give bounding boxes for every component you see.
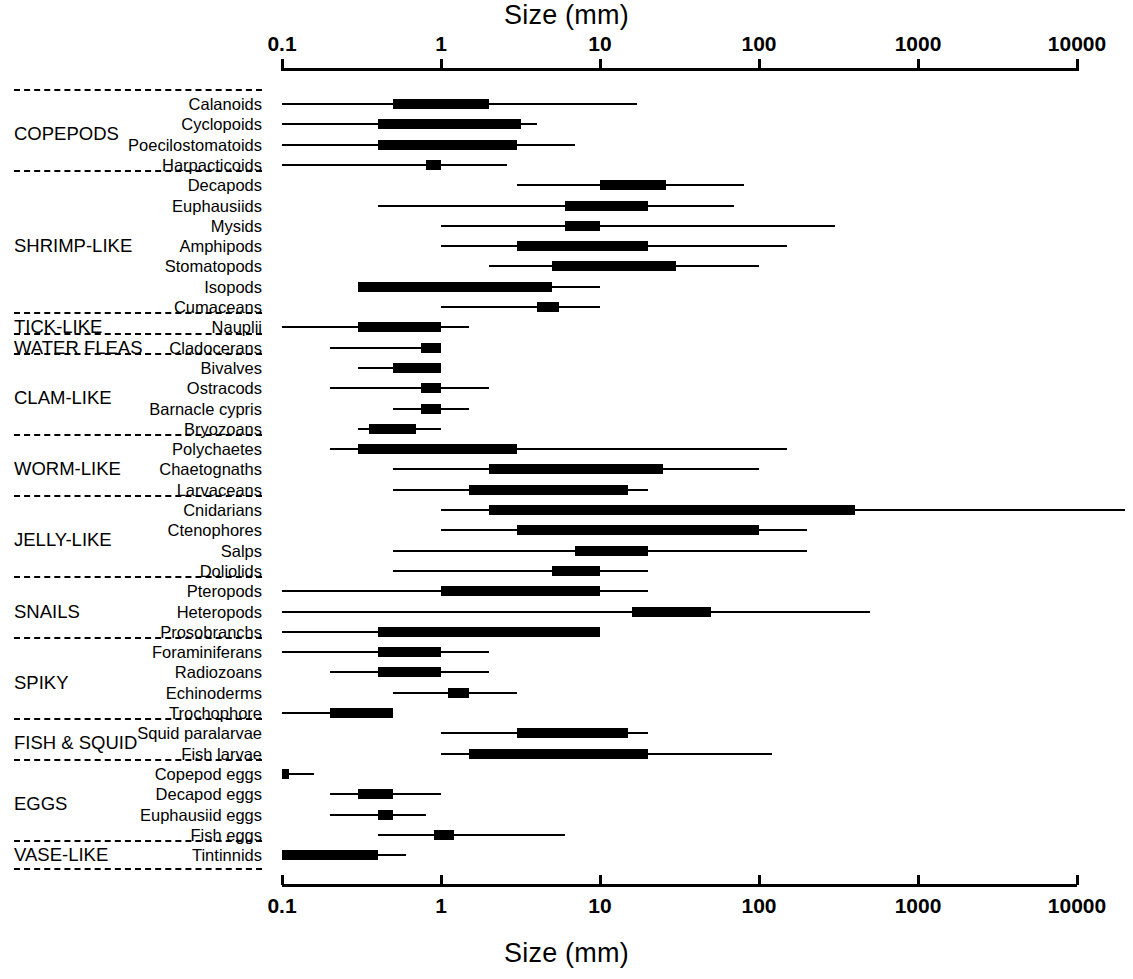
common-range-bar bbox=[469, 749, 648, 759]
taxon-label: Decapods bbox=[188, 175, 262, 195]
common-range-bar bbox=[565, 221, 600, 231]
common-range-bar bbox=[378, 667, 441, 677]
chart-row: Mysids bbox=[0, 216, 1133, 236]
group-divider bbox=[14, 840, 262, 842]
common-range-bar bbox=[393, 99, 489, 109]
group-label: WORM-LIKE bbox=[14, 459, 262, 479]
common-range-bar bbox=[489, 505, 855, 515]
chart-row: Cnidarians bbox=[0, 500, 1133, 520]
taxon-label: Cnidarians bbox=[183, 500, 262, 520]
group-label: SHRIMP-LIKE bbox=[14, 236, 262, 256]
common-range-bar bbox=[378, 810, 393, 820]
full-range-bar bbox=[441, 225, 835, 227]
common-range-bar bbox=[358, 322, 441, 332]
group-divider bbox=[14, 637, 262, 639]
axis-tick-label: 10 bbox=[588, 894, 611, 918]
chart-rows: CalanoidsCyclopoidsPoecilostomatoidsHarp… bbox=[0, 0, 1133, 979]
chart-row: Stomatopods bbox=[0, 256, 1133, 276]
group-divider bbox=[14, 718, 262, 720]
common-range-bar bbox=[378, 647, 441, 657]
axis-tick-label: 100 bbox=[741, 894, 776, 918]
common-range-bar bbox=[282, 769, 289, 779]
common-range-bar bbox=[369, 424, 417, 434]
full-range-bar bbox=[330, 387, 489, 389]
common-range-bar bbox=[565, 201, 648, 211]
taxon-label: Pteropods bbox=[187, 581, 262, 601]
axis-tick-label: 0.1 bbox=[267, 894, 296, 918]
common-range-bar bbox=[358, 444, 517, 454]
common-range-bar bbox=[434, 830, 454, 840]
group-divider bbox=[14, 89, 262, 91]
chart-row: Pteropods bbox=[0, 581, 1133, 601]
bottom-axis: 0.1110100100010000 bbox=[0, 880, 1133, 920]
full-range-bar bbox=[282, 164, 507, 166]
chart-row: Polychaetes bbox=[0, 439, 1133, 459]
common-range-bar bbox=[575, 546, 647, 556]
common-range-bar bbox=[378, 119, 522, 129]
common-range-bar bbox=[600, 180, 666, 190]
common-range-bar bbox=[421, 404, 441, 414]
group-divider bbox=[14, 312, 262, 314]
common-range-bar bbox=[421, 383, 441, 393]
common-range-bar bbox=[330, 708, 393, 718]
axis-tick bbox=[599, 875, 602, 885]
plankton-size-chart: Size (mm) 0.1110100100010000 CalanoidsCy… bbox=[0, 0, 1133, 979]
taxon-label: Bivalves bbox=[201, 358, 262, 378]
taxon-label: Calanoids bbox=[189, 94, 262, 114]
axis-tick-label: 1 bbox=[435, 894, 447, 918]
axis-tick bbox=[281, 875, 284, 885]
axis-tick bbox=[758, 875, 761, 885]
common-range-bar bbox=[393, 363, 441, 373]
taxon-label: Euphausiids bbox=[172, 196, 262, 216]
common-range-bar bbox=[421, 343, 441, 353]
full-range-bar bbox=[282, 611, 870, 613]
group-label: COPEPODS bbox=[14, 124, 262, 144]
common-range-bar bbox=[358, 282, 552, 292]
group-divider bbox=[14, 353, 262, 355]
chart-row: Foraminiferans bbox=[0, 642, 1133, 662]
chart-row: Calanoids bbox=[0, 94, 1133, 114]
group-divider bbox=[14, 576, 262, 578]
bottom-axis-title: Size (mm) bbox=[0, 938, 1133, 969]
common-range-bar bbox=[441, 586, 600, 596]
chart-row: Bivalves bbox=[0, 358, 1133, 378]
group-label: SPIKY bbox=[14, 673, 262, 693]
group-label: SNAILS bbox=[14, 602, 262, 622]
axis-tick bbox=[440, 875, 443, 885]
common-range-bar bbox=[448, 688, 469, 698]
group-divider bbox=[14, 759, 262, 761]
chart-row: Copepod eggs bbox=[0, 764, 1133, 784]
chart-row: Euphausiids bbox=[0, 196, 1133, 216]
common-range-bar bbox=[517, 728, 628, 738]
taxon-label: Mysids bbox=[211, 216, 262, 236]
common-range-bar bbox=[517, 241, 648, 251]
axis-tick bbox=[917, 875, 920, 885]
chart-row: Isopods bbox=[0, 277, 1133, 297]
chart-row: Decapods bbox=[0, 175, 1133, 195]
group-divider bbox=[14, 868, 262, 870]
axis-tick bbox=[1076, 875, 1079, 885]
axis-line bbox=[282, 884, 1077, 887]
full-range-bar bbox=[441, 306, 600, 308]
common-range-bar bbox=[426, 160, 441, 170]
taxon-label: Foraminiferans bbox=[152, 642, 262, 662]
group-divider bbox=[14, 170, 262, 172]
common-range-bar bbox=[552, 261, 676, 271]
group-divider bbox=[14, 495, 262, 497]
group-label: JELLY-LIKE bbox=[14, 530, 262, 550]
group-label: VASE-LIKE bbox=[14, 845, 262, 865]
taxon-label: Polychaetes bbox=[172, 439, 262, 459]
full-range-bar bbox=[378, 834, 565, 836]
taxon-label: Copepod eggs bbox=[155, 764, 262, 784]
axis-tick-label: 1000 bbox=[895, 894, 942, 918]
common-range-bar bbox=[378, 140, 517, 150]
group-label: FISH & SQUID bbox=[14, 733, 262, 753]
common-range-bar bbox=[517, 525, 759, 535]
taxon-label: Isopods bbox=[204, 277, 262, 297]
common-range-bar bbox=[537, 302, 559, 312]
axis-tick-label: 10000 bbox=[1048, 894, 1106, 918]
group-label: CLAM-LIKE bbox=[14, 388, 262, 408]
common-range-bar bbox=[378, 627, 600, 637]
group-label: EGGS bbox=[14, 794, 262, 814]
full-range-bar bbox=[378, 205, 735, 207]
